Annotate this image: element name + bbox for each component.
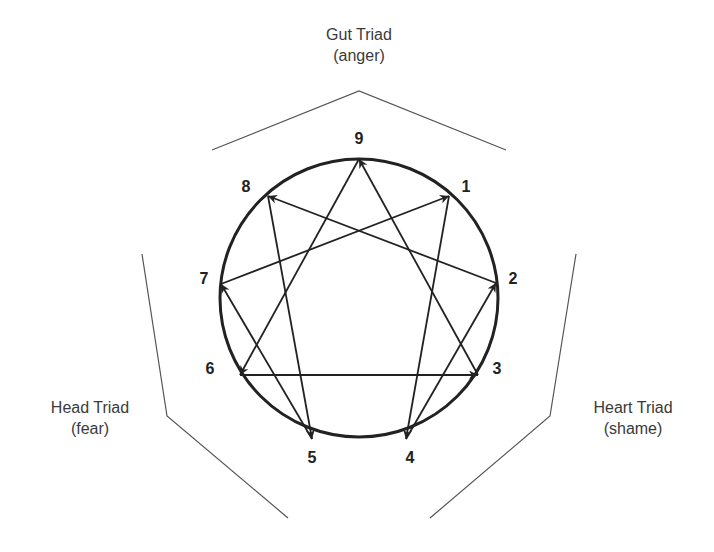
arrow-7-to-1	[221, 196, 449, 284]
gut-triad-emotion: (anger)	[289, 45, 429, 66]
heart-triad-outline	[430, 254, 576, 518]
gut-triad-label: Gut Triad (anger)	[289, 24, 429, 66]
head-triad-label: Head Triad (fear)	[20, 397, 160, 439]
point-label-9: 9	[349, 130, 369, 148]
enneagram-circle	[220, 159, 498, 437]
head-triad-name: Head Triad	[20, 397, 160, 418]
heart-triad-label: Heart Triad (shame)	[563, 397, 703, 439]
arrow-9-to-6	[240, 159, 359, 375]
point-label-7: 7	[194, 270, 214, 288]
enneagram-diagram	[0, 0, 714, 552]
head-triad-outline	[142, 254, 288, 518]
heart-triad-name: Heart Triad	[563, 397, 703, 418]
point-label-1: 1	[456, 178, 476, 196]
point-label-8: 8	[236, 178, 256, 196]
point-label-5: 5	[302, 449, 322, 467]
point-label-3: 3	[487, 360, 507, 378]
point-label-4: 4	[400, 449, 420, 467]
point-label-2: 2	[503, 270, 523, 288]
head-triad-emotion: (fear)	[20, 418, 160, 439]
point-label-6: 6	[200, 360, 220, 378]
heart-triad-emotion: (shame)	[563, 418, 703, 439]
arrow-2-to-8	[268, 196, 496, 283]
gut-triad-name: Gut Triad	[289, 24, 429, 45]
